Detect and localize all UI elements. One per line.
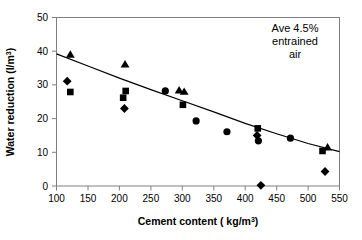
data-point-square-3 [180,101,187,108]
y-axis: 0 10 20 30 40 50 [37,12,57,192]
x-tick-label-500: 500 [300,193,317,204]
x-tick-label-250: 250 [143,193,160,204]
data-point-square-2 [122,88,129,95]
x-tick-label-300: 300 [174,193,191,204]
data-point-diamond-1 [120,104,129,113]
y-axis-title-tail: ) [4,48,16,52]
water-reduction-vs-cement-content-chart: 0 10 20 30 40 50 100 150 200 250 300 350 [0,0,362,240]
data-point-triangle-1 [121,60,130,67]
data-point-circle-2 [223,128,230,135]
series-diamond [63,77,330,190]
y-tick-label-40: 40 [37,46,49,57]
data-markers-layer [63,50,332,189]
data-point-circle-3 [255,137,262,144]
data-point-diamond-3 [256,181,265,190]
x-axis-title-main: Cement content ( kg/m [138,215,251,227]
series-circle [162,87,294,144]
data-point-square-0 [67,89,74,96]
annotation-line-1: Ave 4.5% [272,22,319,34]
chart-annotation: Ave 4.5% entrained air [272,22,319,60]
data-point-diamond-4 [321,167,330,176]
y-tick-label-20: 20 [37,113,49,124]
x-tick-label-400: 400 [237,193,254,204]
data-point-diamond-0 [63,77,72,86]
x-tick-label-200: 200 [111,193,128,204]
data-point-circle-1 [193,117,200,124]
data-point-circle-4 [287,135,294,142]
y-tick-label-30: 30 [37,79,49,90]
x-axis: 100 150 200 250 300 350 400 450 500 550 [48,186,348,204]
data-point-circle-0 [162,87,169,94]
data-point-square-4 [254,125,261,132]
chart-container: 0 10 20 30 40 50 100 150 200 250 300 350 [0,0,362,240]
annotation-line-2: entrained [272,35,318,47]
x-tick-label-450: 450 [268,193,285,204]
data-point-triangle-4 [323,143,332,150]
y-axis-title-main: Water reduction (l/m [4,55,16,156]
y-tick-label-0: 0 [42,181,48,192]
x-axis-title: Cement content ( kg/m3) [138,215,259,227]
annotation-line-3: air [289,48,302,60]
fitted-trend-line [57,54,340,152]
trend-line-layer [57,54,340,152]
y-tick-label-50: 50 [37,12,49,23]
x-tick-label-350: 350 [205,193,222,204]
y-tick-label-10: 10 [37,147,49,158]
y-axis-title: Water reduction (l/m3) [4,48,16,157]
data-point-square-1 [120,94,127,101]
x-tick-label-550: 550 [331,193,348,204]
x-axis-title-tail: ) [255,215,259,227]
x-tick-label-150: 150 [80,193,97,204]
x-tick-label-100: 100 [48,193,65,204]
data-point-triangle-0 [66,50,75,57]
